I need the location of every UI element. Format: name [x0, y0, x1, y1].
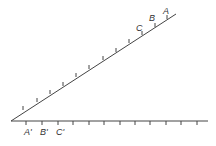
- point-label-c: C: [136, 23, 143, 33]
- point-label-b: B: [149, 13, 155, 23]
- upper-ray-line: [11, 14, 176, 121]
- point-label-c-prime: C': [56, 127, 64, 137]
- point-label-a-prime: A': [23, 127, 32, 137]
- diagram-canvas: ABCA'B'C': [0, 0, 216, 146]
- point-label-a: A: [162, 6, 169, 16]
- angle-diagram: ABCA'B'C': [0, 0, 216, 146]
- point-label-b-prime: B': [40, 127, 48, 137]
